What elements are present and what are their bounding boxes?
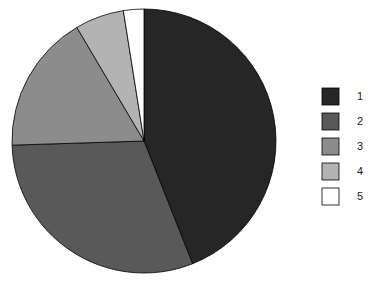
pie-slices-group xyxy=(12,9,276,273)
legend-label-4: 4 xyxy=(357,165,363,177)
chart-canvas: 12345 xyxy=(0,0,386,287)
legend-swatch-5 xyxy=(322,188,339,205)
legend-swatch-2 xyxy=(322,113,339,130)
legend-swatch-4 xyxy=(322,163,339,180)
legend-label-1: 1 xyxy=(357,90,363,102)
legend-label-5: 5 xyxy=(357,190,363,202)
legend-swatch-3 xyxy=(322,138,339,155)
legend-label-3: 3 xyxy=(357,140,363,152)
pie-chart-figure: 12345 xyxy=(0,0,386,287)
legend-label-2: 2 xyxy=(357,115,363,127)
legend-swatch-1 xyxy=(322,88,339,105)
